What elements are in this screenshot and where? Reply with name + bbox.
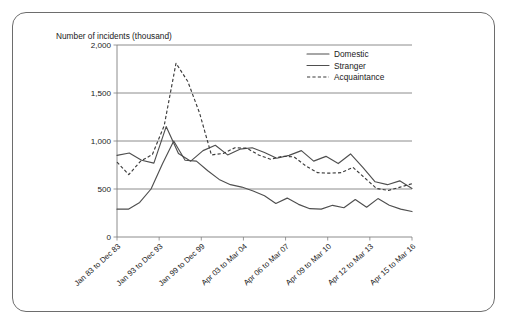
x-tick-labels: Jan 83 to Dec 83Jan 93 to Dec 93Jan 99 t… xyxy=(73,241,418,288)
y-tick-label: 1,500 xyxy=(91,89,112,98)
line-chart: Number of incidents (thousand) 05001,000… xyxy=(0,0,509,326)
series-line-stranger xyxy=(117,141,412,212)
legend-label-domestic: Domestic xyxy=(334,49,369,59)
series-line-acquaintance xyxy=(117,63,412,190)
y-tick-labels: 05001,0001,5002,000 xyxy=(91,41,112,242)
y-tick-label: 500 xyxy=(97,185,111,194)
x-tick-marks xyxy=(117,237,412,241)
x-tick-label: Apr 15 to Mar 16 xyxy=(368,242,417,288)
chart-title: Number of incidents (thousand) xyxy=(56,31,172,41)
y-tick-marks xyxy=(114,45,118,237)
y-tick-label: 1,000 xyxy=(91,137,112,146)
legend-label-acquaintance: Acquaintance xyxy=(334,72,385,82)
chart-svg: Number of incidents (thousand) 05001,000… xyxy=(0,0,509,326)
chart-legend: DomesticStrangerAcquaintance xyxy=(307,49,385,82)
y-tick-label: 2,000 xyxy=(91,41,112,50)
y-tick-label: 0 xyxy=(106,233,111,242)
legend-label-stranger: Stranger xyxy=(334,61,366,71)
